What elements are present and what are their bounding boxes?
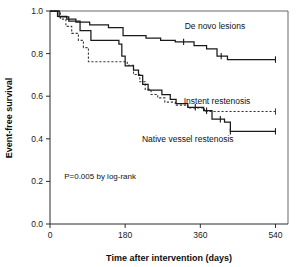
annotation-de-novo-label: De novo lesions <box>185 21 245 31</box>
y-axis-title: Event-free survival <box>4 78 14 159</box>
annotation-pvalue: P=0.005 by log-rank <box>64 172 137 181</box>
y-tick-label: 0.0 <box>31 219 43 229</box>
annotation-native-label: Native vessel restenosis <box>142 134 234 144</box>
x-axis-title: Time after intervention (days) <box>106 253 232 263</box>
annotation-instent-label: Instent restenosis <box>184 96 251 106</box>
kaplan-meier-figure: 0180360540 0.00.20.40.60.81.0 P=0.005 by… <box>0 0 299 267</box>
x-tick-label: 540 <box>268 230 282 240</box>
y-tick-label: 0.4 <box>31 134 43 144</box>
x-tick-label: 180 <box>118 230 132 240</box>
y-tick-label: 0.6 <box>31 91 43 101</box>
survival-chart: 0180360540 0.00.20.40.60.81.0 P=0.005 by… <box>0 0 299 267</box>
y-tick-label: 0.8 <box>31 49 43 59</box>
x-tick-label: 0 <box>48 230 53 240</box>
y-tick-label: 1.0 <box>31 6 43 16</box>
x-tick-label: 360 <box>193 230 207 240</box>
y-tick-label: 0.2 <box>31 176 43 186</box>
